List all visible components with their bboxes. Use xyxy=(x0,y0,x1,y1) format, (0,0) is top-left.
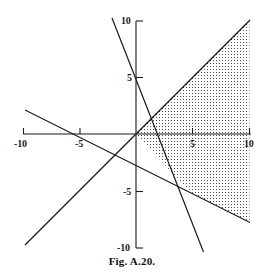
y-tick-label-10: 10 xyxy=(121,16,131,26)
y-tick-label-5: 5 xyxy=(127,73,132,83)
x-tick-label-10: 10 xyxy=(244,139,254,149)
y-tick-label-neg5: -5 xyxy=(123,187,131,197)
x-tick-label-neg10: -10 xyxy=(14,139,27,149)
x-tick-label-5: 5 xyxy=(190,139,195,149)
figure-container: -10 -5 5 10 10 5 -5 -10 Fig. A.20. xyxy=(0,0,264,277)
plot-canvas xyxy=(0,0,264,277)
figure-caption: Fig. A.20. xyxy=(0,255,264,267)
y-tick-label-neg10: -10 xyxy=(117,243,130,253)
x-tick-label-neg5: -5 xyxy=(75,139,83,149)
